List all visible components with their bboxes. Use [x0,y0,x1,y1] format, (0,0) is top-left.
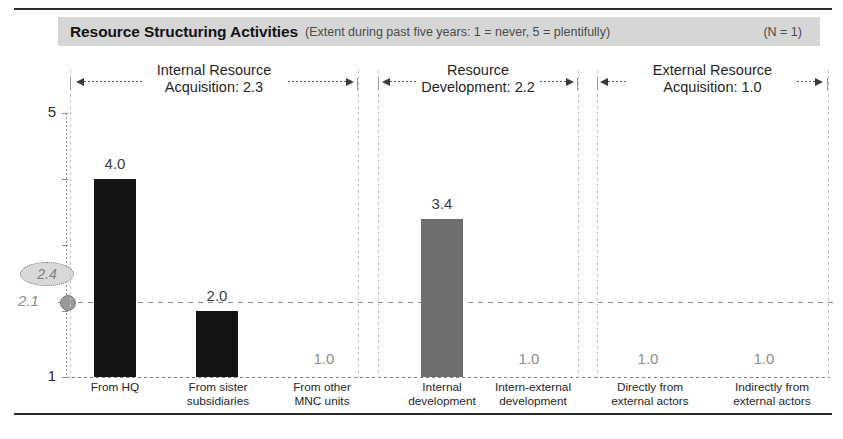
group-arrow-left-icon [382,78,416,85]
chart-title: Resource Structuring Activities [70,23,298,41]
x-axis-line [66,377,830,378]
y-axis-label-top: 5 [30,103,56,120]
bar-value-internal-development: 3.4 [412,195,472,212]
group-tick-right [357,78,358,90]
bar-value-from-other-mnc-units: 1.0 [294,350,354,367]
x-label-line1: Directly from [598,381,702,395]
x-label-line2: external actors [716,395,828,409]
x-label-line2: development [396,395,488,409]
group-header-external-resource-acquisition: External Resource Acquisition: 1.0 [597,62,828,106]
group-header-internal-resource-acquisition: Internal Resource Acquisition: 2.3 [70,62,358,106]
bar-internal-development[interactable] [421,219,463,377]
group-separator-4 [597,70,598,378]
x-label-line1: From sister [172,381,264,395]
bar-value-from-sister-subsidiaries: 2.0 [187,287,247,304]
x-label-from-sister-subsidiaries: From sister subsidiaries [172,381,264,408]
y-axis-tick-3 [62,245,68,246]
chart-subtitle: (Extent during past five years: 1 = neve… [305,25,610,39]
y-axis-tick-5 [62,113,68,114]
group-title-line1: External Resource [597,62,828,79]
y-axis-tick-4 [62,179,68,180]
x-label-line2: MNC units [276,395,368,409]
x-label-line1: Internal [396,381,488,395]
x-label-directly-from-external-actors: Directly from external actors [598,381,702,408]
x-label-line1: From HQ [70,381,160,395]
x-label-line1: Indirectly from [716,381,828,395]
group-separator-1 [358,70,359,378]
group-arrow-left-icon [600,78,626,85]
group-arrow-right-icon [797,78,823,85]
group-tick-right [827,78,828,90]
bar-from-hq[interactable] [94,179,136,377]
group-separator-right [828,70,829,378]
bar-value-indirectly-from-external-actors: 1.0 [734,350,794,367]
group-arrow-left-icon [76,78,142,85]
x-label-line2: external actors [598,395,702,409]
x-label-line1: From other [276,381,368,395]
group-separator-left [70,70,71,378]
x-label-indirectly-from-external-actors: Indirectly from external actors [716,381,828,408]
bar-value-from-hq: 4.0 [85,155,145,172]
plot-area: 5 1 2.1 2.4 Internal Resource Acquisitio… [0,0,843,439]
chart-title-band: Resource Structuring Activities (Extent … [58,17,820,46]
y-axis-label-bottom: 1 [30,367,56,384]
x-label-from-hq: From HQ [70,381,160,395]
group-tick-left [378,78,379,90]
x-label-from-other-mnc-units: From other MNC units [276,381,368,408]
reference-line-value: 2.1 [18,292,39,309]
sample-size-label: (N = 1) [763,25,808,39]
top-rule [14,8,832,10]
group-separator-2 [378,70,379,378]
group-title-line1: Resource [378,62,578,79]
group-arrow-right-icon [540,78,574,85]
x-label-intern-external-development: Intern-external development [481,381,585,408]
group-title-line1: Internal Resource [70,62,358,79]
x-label-line2: development [481,395,585,409]
reference-marker-dot [60,295,76,311]
bar-value-directly-from-external-actors: 1.0 [618,350,678,367]
group-tick-left [70,78,71,90]
x-label-internal-development: Internal development [396,381,488,408]
bottom-rule [14,413,832,415]
group-tick-left [597,78,598,90]
bar-value-intern-external-development: 1.0 [499,350,559,367]
y-axis-tick-2 [62,311,68,312]
overall-mean-badge: 2.4 [20,262,74,286]
group-header-resource-development: Resource Development: 2.2 [378,62,578,106]
x-label-line1: Intern-external [481,381,585,395]
bar-from-sister-subsidiaries[interactable] [196,311,238,377]
group-title-line2: Acquisition: 1.0 [597,79,828,96]
group-separator-3 [578,70,579,378]
group-arrow-right-icon [288,78,354,85]
x-label-line2: subsidiaries [172,395,264,409]
figure: Resource Structuring Activities (Extent … [0,0,843,439]
group-tick-right [577,78,578,90]
